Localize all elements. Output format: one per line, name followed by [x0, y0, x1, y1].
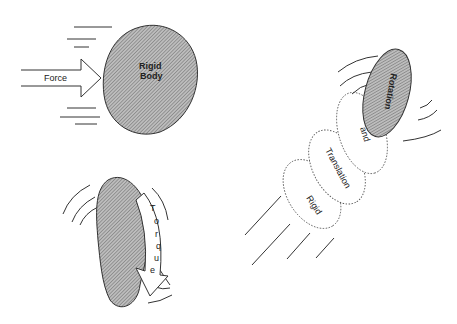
rotation-lines-left: [63, 185, 98, 225]
svg-text:e: e: [150, 265, 155, 275]
rotation-lines-right: [403, 100, 441, 141]
svg-text:q: q: [156, 241, 161, 251]
rigid-body-label-line1: Rigid: [139, 61, 162, 71]
svg-text:u: u: [154, 253, 159, 263]
torque-panel: T o r q u e: [63, 177, 172, 306]
motion-lines-bottom: [60, 108, 100, 124]
force-panel: Force Rigid Body: [21, 25, 198, 134]
rigid-body-motion-diagram: Force Rigid Body T o r q u e: [0, 0, 457, 324]
motion-panel: Rigid Translation and Rotation: [245, 44, 441, 265]
svg-text:T: T: [150, 203, 156, 213]
motion-lines-top: [67, 27, 112, 47]
svg-text:r: r: [155, 229, 158, 239]
force-label: Force: [44, 73, 67, 83]
rigid-body-label-line2: Body: [140, 71, 163, 81]
svg-text:o: o: [154, 216, 159, 226]
